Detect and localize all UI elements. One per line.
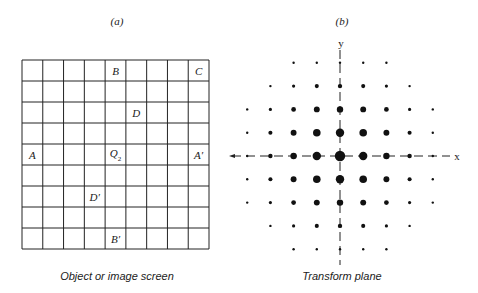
grid-label: D′ <box>90 191 100 203</box>
grid-label: C <box>195 65 202 77</box>
grid-label: B′ <box>111 233 120 245</box>
grid-label: B <box>112 65 119 77</box>
grid-label: D <box>132 107 140 119</box>
panel-b-caption: Transform plane <box>302 270 381 282</box>
grid-label: A <box>29 149 36 161</box>
panel-a-caption: Object or image screen <box>60 270 174 282</box>
y-axis-label: y <box>338 37 344 49</box>
grid-label: A′ <box>194 149 203 161</box>
figure-canvas <box>0 0 478 293</box>
grid-label: Q2 <box>110 147 121 162</box>
x-axis-label: x <box>454 150 460 162</box>
